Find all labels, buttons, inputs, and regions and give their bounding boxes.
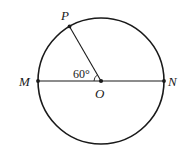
label-p: P xyxy=(60,8,69,23)
circle-diagram: P M N O 60° xyxy=(0,0,187,154)
label-m: M xyxy=(18,74,31,89)
point-o xyxy=(99,79,103,83)
angle-arc-60 xyxy=(94,75,98,81)
point-m xyxy=(36,79,40,83)
label-n: N xyxy=(167,74,178,89)
label-o: O xyxy=(95,86,105,101)
point-n xyxy=(162,79,166,83)
angle-label-60: 60° xyxy=(73,67,90,81)
point-p xyxy=(68,25,72,29)
